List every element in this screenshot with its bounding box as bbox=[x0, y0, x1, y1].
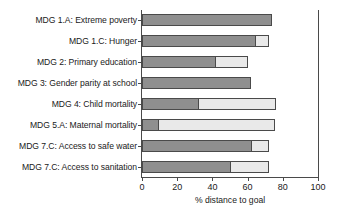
x-axis-tick-label: 0 bbox=[139, 182, 144, 192]
bar-segment-remaining bbox=[255, 35, 269, 47]
bar-segment-achieved bbox=[142, 35, 255, 47]
chart-row: MDG 1.A: Extreme poverty bbox=[142, 10, 318, 31]
chart-row: MDG 1.C: Hunger bbox=[142, 31, 318, 52]
bar-segment-remaining bbox=[251, 140, 269, 152]
bar-segment-achieved bbox=[142, 140, 251, 152]
x-tick-mark bbox=[283, 177, 284, 181]
x-axis-tick-label: 100 bbox=[310, 182, 325, 192]
y-axis-label: MDG 1.A: Extreme poverty bbox=[36, 15, 137, 25]
x-tick-mark bbox=[177, 177, 178, 181]
stacked-bar bbox=[142, 35, 269, 47]
chart-row: MDG 7.C: Access to safe water bbox=[142, 135, 318, 156]
chart-container: MDG 1.A: Extreme poverty MDG 1.C: Hunger… bbox=[0, 0, 348, 222]
chart-row: MDG 5.A: Maternal mortality bbox=[142, 114, 318, 135]
bar-segment-achieved bbox=[142, 56, 215, 68]
x-tick-mark bbox=[212, 177, 213, 181]
chart-row: MDG 3: Gender parity at school bbox=[142, 73, 318, 94]
y-axis-label: MDG 1.C: Hunger bbox=[69, 36, 137, 46]
bar-segment-achieved bbox=[142, 77, 251, 89]
stacked-bar bbox=[142, 56, 248, 68]
bar-segment-remaining bbox=[215, 56, 248, 68]
bar-segment-achieved bbox=[142, 119, 158, 131]
x-axis-tick-label: 80 bbox=[278, 182, 288, 192]
bar-segment-remaining bbox=[158, 119, 275, 131]
stacked-bar bbox=[142, 98, 276, 110]
stacked-bar bbox=[142, 14, 272, 26]
bar-segment-achieved bbox=[142, 161, 230, 173]
y-axis-label: MDG 5.A: Maternal mortality bbox=[30, 120, 137, 130]
x-tick-mark bbox=[142, 177, 143, 181]
bar-segment-achieved bbox=[142, 98, 198, 110]
y-axis-label: MDG 3: Gender parity at school bbox=[18, 78, 137, 88]
x-axis-tick-label: 20 bbox=[172, 182, 182, 192]
plot-area: MDG 1.A: Extreme poverty MDG 1.C: Hunger… bbox=[141, 10, 319, 178]
x-axis-title: % distance to goal bbox=[195, 195, 265, 205]
stacked-bar bbox=[142, 119, 275, 131]
y-axis-label: MDG 7.C: Access to safe water bbox=[19, 141, 137, 151]
chart-row: MDG 2: Primary education bbox=[142, 52, 318, 73]
stacked-bar bbox=[142, 161, 269, 173]
y-axis-label: MDG 7.C: Access to sanitation bbox=[22, 162, 137, 172]
chart-row: MDG 7.C: Access to sanitation bbox=[142, 156, 318, 177]
x-tick-mark bbox=[318, 177, 319, 181]
x-tick-mark bbox=[248, 177, 249, 181]
x-axis-tick-label: 60 bbox=[243, 182, 253, 192]
chart-row: MDG 4: Child mortality bbox=[142, 94, 318, 115]
x-axis-tick-label: 40 bbox=[207, 182, 217, 192]
y-axis-label: MDG 4: Child mortality bbox=[52, 99, 137, 109]
bar-segment-remaining bbox=[198, 98, 275, 110]
bar-segment-remaining bbox=[230, 161, 269, 173]
y-axis-label: MDG 2: Primary education bbox=[37, 57, 137, 67]
stacked-bar bbox=[142, 140, 269, 152]
stacked-bar bbox=[142, 77, 251, 89]
bar-segment-achieved bbox=[142, 14, 272, 26]
